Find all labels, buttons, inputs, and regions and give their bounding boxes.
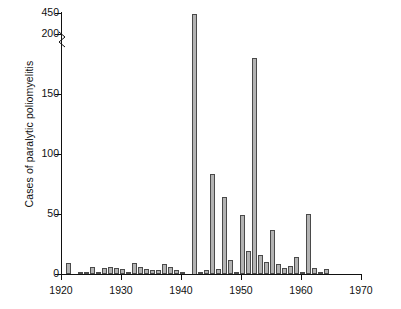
x-tick-1950 (241, 274, 242, 280)
bar-1952 (252, 58, 257, 274)
bar-1951 (246, 251, 251, 274)
bar-1947 (222, 197, 227, 274)
bar-1964 (324, 269, 329, 274)
x-tick-1970 (361, 274, 362, 280)
bar-1962 (312, 268, 317, 274)
bar-1936 (156, 270, 161, 274)
x-tick-label-1960: 1960 (281, 284, 321, 296)
x-axis-line (61, 274, 362, 275)
bar-1960 (300, 272, 305, 274)
y-tick-label-50: 50 (19, 208, 59, 219)
bar-1921 (66, 263, 71, 274)
bar-1933 (138, 267, 143, 274)
bar-1931 (126, 272, 131, 274)
bar-1929 (114, 268, 119, 274)
bar-1923 (78, 272, 83, 274)
polio-bar-chart: Cases of paralytic poliomyelitis 0501001… (0, 0, 401, 309)
bar-1937 (162, 264, 167, 274)
bar-1944 (204, 270, 209, 274)
bar-1953 (258, 255, 263, 274)
bar-1958 (288, 266, 293, 274)
x-tick-label-1920: 1920 (41, 284, 81, 296)
plot-area: 050100150200450 192019301940195019601970 (61, 12, 361, 274)
x-tick-1960 (301, 274, 302, 280)
bar-1928 (108, 267, 113, 274)
bar-series (62, 12, 362, 274)
bar-1955 (270, 230, 275, 274)
bar-1943 (198, 272, 203, 274)
bar-1949 (234, 272, 239, 274)
x-tick-label-1950: 1950 (221, 284, 261, 296)
bar-1945 (210, 174, 215, 274)
x-tick-label-1970: 1970 (341, 284, 381, 296)
y-tick-label-150: 150 (19, 88, 59, 99)
bar-1961 (306, 214, 311, 274)
bar-1946 (216, 269, 221, 274)
bar-1950 (240, 215, 245, 274)
bar-1926 (96, 272, 101, 274)
bar-1954 (264, 262, 269, 274)
y-tick-label-450: 450 (19, 7, 59, 18)
bar-1956 (276, 264, 281, 274)
bar-1957 (282, 268, 287, 274)
y-tick-label-200: 200 (19, 28, 59, 39)
bar-1925 (90, 267, 95, 274)
bar-1932 (132, 263, 137, 274)
x-tick-1930 (121, 274, 122, 280)
x-tick-1920 (61, 274, 62, 280)
bar-1942 (192, 14, 197, 274)
bar-1934 (144, 269, 149, 274)
bar-1938 (168, 267, 173, 274)
bar-1948 (228, 260, 233, 274)
bar-1940 (180, 272, 185, 274)
x-tick-label-1940: 1940 (161, 284, 201, 296)
bar-1927 (102, 268, 107, 274)
bar-1930 (120, 269, 125, 274)
bar-1939 (174, 270, 179, 274)
x-tick-1940 (181, 274, 182, 280)
bar-1963 (318, 272, 323, 274)
bar-1935 (150, 270, 155, 274)
bar-1959 (294, 257, 299, 274)
y-tick-label-0: 0 (19, 268, 59, 279)
y-tick-label-100: 100 (19, 148, 59, 159)
bar-1924 (84, 272, 89, 274)
x-tick-label-1930: 1930 (101, 284, 141, 296)
